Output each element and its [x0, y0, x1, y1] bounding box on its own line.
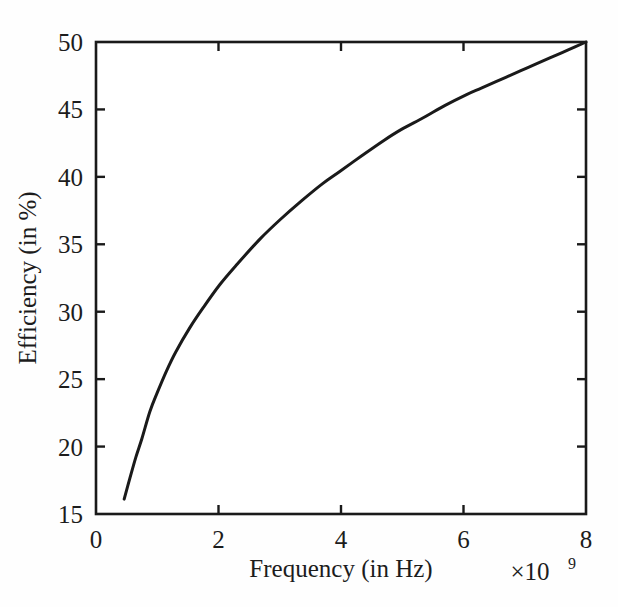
x-axis-tick-labels: 02468	[90, 526, 593, 553]
y-axis-tick-labels: 1520253035404550	[58, 29, 83, 528]
x-axis-title: Frequency (in Hz)	[249, 555, 432, 583]
y-tick-label: 35	[58, 231, 83, 258]
x-axis-exponent: ×10 9	[510, 555, 576, 585]
y-tick-label: 40	[58, 164, 83, 191]
figure-container: 02468 1520253035404550 Frequency (in Hz)…	[0, 0, 618, 607]
x-tick-label: 2	[212, 526, 225, 553]
chart-canvas: 02468 1520253035404550 Frequency (in Hz)…	[0, 0, 618, 607]
x-axis-exponent-power: 9	[568, 555, 576, 572]
y-tick-label: 30	[58, 299, 83, 326]
x-tick-label: 6	[457, 526, 470, 553]
y-tick-label: 45	[58, 96, 83, 123]
x-tick-label: 4	[335, 526, 348, 553]
y-tick-label: 20	[58, 434, 83, 461]
y-tick-label: 15	[58, 501, 83, 528]
y-tick-label: 25	[58, 366, 83, 393]
x-axis-exponent-base: ×10	[510, 558, 549, 585]
y-tick-label: 50	[58, 29, 83, 56]
y-axis-title: Efficiency (in %)	[14, 191, 42, 364]
plot-background	[96, 42, 586, 514]
x-tick-label: 8	[580, 526, 593, 553]
x-tick-label: 0	[90, 526, 103, 553]
